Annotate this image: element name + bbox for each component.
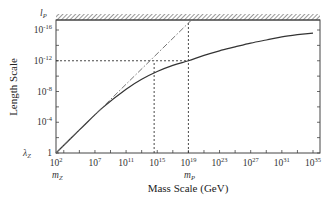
y-tick-label: 10-4 — [37, 115, 53, 127]
x-tick-label: 1019 — [180, 156, 196, 168]
y-axis-title: Length Scale — [7, 58, 19, 116]
x-tick-label: 1015 — [149, 156, 165, 168]
data-series — [56, 20, 313, 153]
x-tick-label: 1027 — [243, 156, 260, 168]
length-scale-curve — [56, 33, 313, 153]
x-tick-label: 1035 — [305, 156, 321, 168]
x-tick-label: 1031 — [274, 156, 290, 168]
y-tick-label: 10-12 — [34, 54, 52, 66]
length-vs-mass-chart: 1021071011101510191023102710311035 110-4… — [0, 0, 332, 207]
x-axis-title: Mass Scale (GeV) — [148, 182, 229, 195]
planck-boundary-hatch — [56, 14, 320, 20]
y-tick-label: 1 — [47, 148, 52, 158]
y-axis-ticks: 110-410-810-1210-16 — [34, 23, 320, 158]
lambda-z-label: λZ — [22, 148, 31, 159]
extrapolation-line — [56, 20, 192, 153]
m-planck-label: mP — [184, 170, 195, 181]
l-planck-label: lP — [40, 8, 47, 19]
y-tick-label: 10-16 — [34, 23, 53, 35]
m-z-label: mZ — [52, 170, 63, 181]
x-tick-label: 1023 — [212, 156, 228, 168]
y-tick-label: 10-8 — [37, 85, 52, 97]
x-tick-label: 1011 — [118, 156, 134, 168]
x-tick-label: 107 — [89, 156, 103, 168]
